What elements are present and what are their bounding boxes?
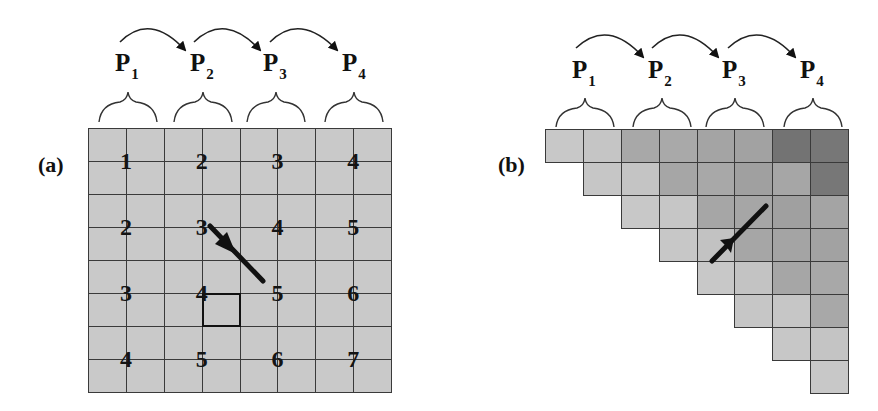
- wavefront-step-number: 5: [347, 215, 359, 239]
- dependency-arrow-a: [210, 226, 263, 281]
- wavefront-step-number: 3: [196, 215, 208, 239]
- wavefront-step-number: 4: [196, 281, 208, 305]
- communication-arcs-a: [120, 29, 337, 50]
- figure: (a) P1 P2 P3 P4 1234234534564567 (b) P1 …: [0, 0, 878, 411]
- wavefront-step-number: 2: [120, 215, 132, 239]
- wavefront-step-number: 5: [196, 347, 208, 371]
- wavefront-step-number: 2: [196, 149, 208, 173]
- wavefront-step-number: 6: [271, 347, 283, 371]
- wavefront-step-number: 3: [120, 281, 132, 305]
- column-braces-a: [99, 92, 383, 122]
- column-braces-b: [556, 98, 842, 127]
- wavefront-step-number: 4: [347, 149, 359, 173]
- wavefront-step-number: 6: [347, 281, 359, 305]
- wavefront-step-number: 3: [271, 149, 283, 173]
- wavefront-step-number: 7: [347, 347, 359, 371]
- wavefront-step-number: 5: [271, 281, 283, 305]
- wavefront-step-number: 4: [271, 215, 283, 239]
- communication-arcs-b: [576, 35, 795, 57]
- wavefront-step-number: 1: [120, 149, 132, 173]
- wavefront-step-number: 4: [120, 347, 132, 371]
- dependency-arrow-b: [712, 206, 766, 261]
